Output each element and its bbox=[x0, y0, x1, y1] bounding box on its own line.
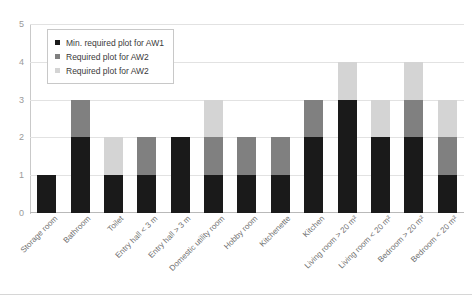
bar-segment bbox=[371, 137, 390, 213]
bar-segment bbox=[438, 175, 457, 213]
bar-stack bbox=[271, 137, 290, 213]
chart-container: 012345 Min. required plot for AW1Require… bbox=[0, 0, 472, 303]
x-axis-tick-label: Toilet bbox=[106, 214, 126, 234]
bar-segment bbox=[404, 137, 423, 213]
bar-stack bbox=[137, 137, 156, 213]
bar-stack bbox=[104, 137, 123, 213]
y-axis-tick-label: 3 bbox=[19, 95, 24, 105]
bar-segment bbox=[137, 175, 156, 213]
bar-segment bbox=[204, 175, 223, 213]
legend-item[interactable]: Required plot for AW2 bbox=[55, 64, 164, 77]
bar-segment bbox=[271, 175, 290, 213]
x-axis-tick-label: Kitchenette bbox=[258, 214, 293, 249]
legend-swatch-icon bbox=[55, 54, 60, 59]
bar-segment bbox=[71, 100, 90, 138]
y-axis-tick-label: 4 bbox=[19, 57, 24, 67]
y-axis-tick-label: 5 bbox=[19, 19, 24, 29]
bar-segment bbox=[438, 137, 457, 175]
bar-segment bbox=[404, 100, 423, 138]
bar-stack bbox=[338, 62, 357, 213]
bar-stack bbox=[71, 100, 90, 213]
bar-stack bbox=[37, 175, 56, 213]
bar-column bbox=[197, 24, 230, 213]
x-axis-tick-labels: Storage roomBathroomToiletEntry hall < 3… bbox=[30, 214, 464, 303]
bar-stack bbox=[404, 62, 423, 213]
bar-segment bbox=[338, 100, 357, 213]
bar-stack bbox=[371, 100, 390, 213]
bar-stack bbox=[304, 100, 323, 213]
bar-segment bbox=[404, 62, 423, 100]
bar-column bbox=[397, 24, 430, 213]
bar-segment bbox=[271, 137, 290, 175]
x-axis-tick-label: Bathroom bbox=[62, 214, 93, 245]
legend-item-label: Required plot for AW2 bbox=[66, 66, 149, 76]
legend-swatch-icon bbox=[55, 68, 60, 73]
bar-column bbox=[364, 24, 397, 213]
bar-column bbox=[431, 24, 464, 213]
bar-segment bbox=[304, 137, 323, 213]
bar-stack bbox=[204, 100, 223, 213]
bar-segment bbox=[137, 137, 156, 175]
bar-segment bbox=[37, 175, 56, 213]
bar-column bbox=[331, 24, 364, 213]
bottom-divider bbox=[0, 294, 472, 295]
bar-segment bbox=[438, 100, 457, 138]
bar-segment bbox=[104, 137, 123, 175]
bar-segment bbox=[204, 100, 223, 138]
bar-segment bbox=[304, 100, 323, 138]
bar-column bbox=[264, 24, 297, 213]
legend-item[interactable]: Required plot for AW2 bbox=[55, 50, 164, 63]
legend-item-label: Required plot for AW2 bbox=[66, 52, 149, 62]
bar-segment bbox=[204, 137, 223, 175]
bar-segment bbox=[237, 175, 256, 213]
y-axis-tick-label: 1 bbox=[19, 170, 24, 180]
x-axis-tick-label: Kitchen bbox=[301, 214, 326, 239]
bar-stack bbox=[438, 100, 457, 213]
bar-segment bbox=[338, 62, 357, 100]
y-axis-tick-label: 0 bbox=[19, 208, 24, 218]
bar-segment bbox=[71, 137, 90, 213]
bar-stack bbox=[171, 137, 190, 213]
bar-segment bbox=[237, 137, 256, 175]
x-axis-tick-label: Storage room bbox=[18, 214, 59, 255]
bar-segment bbox=[171, 137, 190, 213]
legend-item-label: Min. required plot for AW1 bbox=[66, 38, 164, 48]
legend-swatch-icon bbox=[55, 40, 60, 45]
y-axis-tick-label: 2 bbox=[19, 132, 24, 142]
legend-item[interactable]: Min. required plot for AW1 bbox=[55, 36, 164, 49]
bar-segment bbox=[371, 100, 390, 138]
chart-legend: Min. required plot for AW1Required plot … bbox=[47, 29, 174, 84]
bar-segment bbox=[104, 175, 123, 213]
bar-column bbox=[297, 24, 330, 213]
x-axis-tick-label: Hobby room bbox=[222, 214, 259, 251]
bar-column bbox=[230, 24, 263, 213]
bar-stack bbox=[237, 137, 256, 213]
